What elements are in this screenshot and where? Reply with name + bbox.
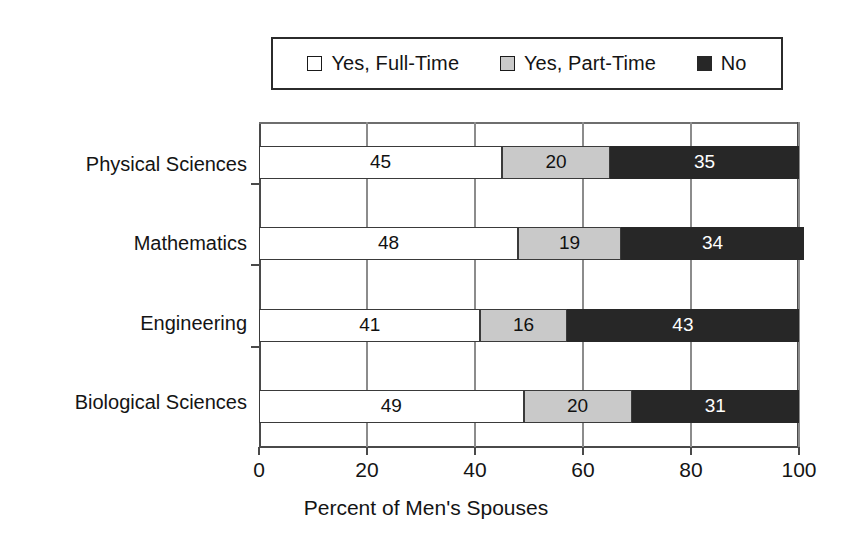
legend-entry-part-time: Yes, Part-Time xyxy=(500,52,656,75)
category-label-engineering: Engineering xyxy=(0,312,247,335)
category-label-biological-sciences: Biological Sciences xyxy=(0,391,247,414)
legend-swatch-full-time-icon xyxy=(307,56,322,71)
bar-segment-full-time: 41 xyxy=(259,309,480,342)
bar-segment-part-time: 16 xyxy=(480,309,566,342)
bar-segment-no: 43 xyxy=(567,309,799,342)
bar-row-biological-sciences: 492031 xyxy=(259,390,799,423)
x-tick-label-100: 100 xyxy=(781,458,816,482)
x-tick-mark-0 xyxy=(258,447,260,455)
legend-swatch-part-time-icon xyxy=(500,56,515,71)
x-tick-mark-100 xyxy=(798,447,800,455)
bar-segment-full-time: 49 xyxy=(259,390,524,423)
x-tick-label-0: 0 xyxy=(253,458,265,482)
bar-row-physical-sciences: 452035 xyxy=(259,146,799,179)
bar-value-label: 34 xyxy=(702,233,723,252)
bar-value-label: 19 xyxy=(559,233,580,252)
bar-value-label: 31 xyxy=(705,396,726,415)
bar-value-label: 43 xyxy=(672,315,693,334)
chart-legend: Yes, Full-Time Yes, Part-Time No xyxy=(271,37,783,90)
bar-value-label: 41 xyxy=(359,315,380,334)
x-tick-label-80: 80 xyxy=(679,458,702,482)
bar-value-label: 35 xyxy=(694,152,715,171)
legend-label-part-time: Yes, Part-Time xyxy=(524,52,656,75)
legend-entry-no: No xyxy=(697,52,747,75)
plot-top-border xyxy=(259,122,799,124)
category-label-physical-sciences: Physical Sciences xyxy=(0,153,247,176)
x-tick-label-20: 20 xyxy=(355,458,378,482)
legend-label-no: No xyxy=(721,52,747,75)
bar-value-label: 49 xyxy=(381,396,402,415)
legend-swatch-no-icon xyxy=(697,56,712,71)
bar-segment-part-time: 19 xyxy=(518,227,621,260)
x-tick-mark-80 xyxy=(690,447,692,455)
y-tick-mark-1 xyxy=(251,183,259,185)
bar-value-label: 45 xyxy=(370,152,391,171)
bar-row-mathematics: 481934 xyxy=(259,227,799,260)
y-tick-mark-2 xyxy=(251,264,259,266)
x-tick-mark-20 xyxy=(366,447,368,455)
x-tick-mark-60 xyxy=(582,447,584,455)
x-tick-label-60: 60 xyxy=(571,458,594,482)
y-tick-mark-3 xyxy=(251,346,259,348)
bar-value-label: 16 xyxy=(513,315,534,334)
plot-bottom-axis xyxy=(259,446,799,448)
category-label-mathematics: Mathematics xyxy=(0,232,247,255)
x-axis-title: Percent of Men's Spouses xyxy=(0,496,852,520)
bar-segment-part-time: 20 xyxy=(502,146,610,179)
bar-segment-no: 34 xyxy=(621,227,805,260)
bar-value-label: 20 xyxy=(567,396,588,415)
x-tick-mark-40 xyxy=(474,447,476,455)
bar-row-engineering: 411643 xyxy=(259,309,799,342)
bar-value-label: 48 xyxy=(378,233,399,252)
bar-segment-full-time: 48 xyxy=(259,227,518,260)
bar-segment-no: 35 xyxy=(610,146,799,179)
bar-segment-no: 31 xyxy=(632,390,799,423)
bar-segment-full-time: 45 xyxy=(259,146,502,179)
legend-entry-full-time: Yes, Full-Time xyxy=(307,52,459,75)
bar-segment-part-time: 20 xyxy=(524,390,632,423)
chart-plot-area: 452035481934411643492031 xyxy=(259,122,799,447)
bar-value-label: 20 xyxy=(545,152,566,171)
category-axis-labels: Physical Sciences Mathematics Engineerin… xyxy=(0,122,247,447)
x-tick-label-40: 40 xyxy=(463,458,486,482)
legend-label-full-time: Yes, Full-Time xyxy=(331,52,459,75)
